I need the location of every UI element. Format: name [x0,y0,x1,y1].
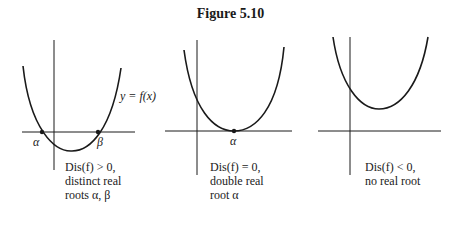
caption-negative: Dis(f) < 0, no real root [365,160,420,188]
double-root-point [232,129,236,133]
caption-line: Dis(f) = 0, [210,160,264,174]
root-beta-label: β [97,135,103,149]
parabola-curve [333,37,428,109]
panel-positive-discriminant [22,40,135,170]
panel-zero-discriminant [165,40,292,175]
caption-line: distinct real [65,174,121,188]
root-beta-point [96,130,100,134]
root-alpha-point [40,130,44,134]
caption-line: Dis(f) < 0, [365,160,420,174]
panel-negative-discriminant [318,37,441,175]
caption-positive: Dis(f) > 0, distinct real roots α, β [65,160,121,202]
curve-label: y = f(x) [120,89,156,103]
caption-line: root α [210,188,264,202]
parabola-curve [184,47,284,131]
caption-zero: Dis(f) = 0, double real root α [210,160,264,202]
caption-line: no real root [365,174,420,188]
double-root-label: α [230,134,236,148]
caption-line: Dis(f) > 0, [65,160,121,174]
caption-line: double real [210,174,264,188]
caption-line: roots α, β [65,188,121,202]
root-alpha-label: α [33,135,39,149]
